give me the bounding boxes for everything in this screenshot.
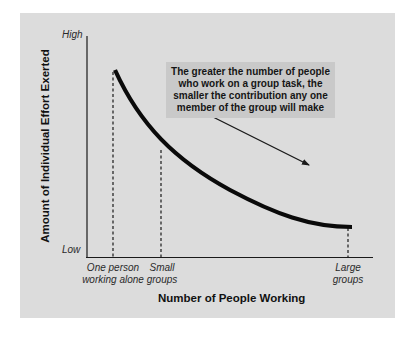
x-tick-one-person-line2: working alone (82, 274, 144, 285)
callout-line: The greater the number of people (171, 66, 330, 78)
y-axis-high-label: High (62, 29, 83, 41)
x-tick-large-line1: Large (335, 262, 361, 273)
annotation-callout: The greater the number of people who wor… (166, 62, 335, 118)
x-axis-title: Number of People Working (158, 292, 305, 304)
annotation-arrow (213, 117, 309, 165)
chart-plot-area (0, 0, 412, 339)
callout-line: who work on a group task, the (179, 78, 323, 90)
x-tick-one-person: One person working alone (82, 262, 144, 286)
y-axis-title: Amount of Individual Effort Exerted (39, 49, 51, 243)
x-tick-one-person-line1: One person (87, 262, 139, 273)
x-tick-small-line1: Small (149, 262, 174, 273)
callout-line: smaller the contribution any one (173, 90, 327, 102)
x-tick-small-line2: groups (147, 274, 178, 285)
x-tick-large-groups: Large groups (333, 262, 364, 286)
x-tick-large-line2: groups (333, 274, 364, 285)
x-tick-small-groups: Small groups (147, 262, 178, 286)
y-axis-low-label: Low (62, 244, 80, 256)
callout-line: member of the group will make (177, 102, 324, 114)
